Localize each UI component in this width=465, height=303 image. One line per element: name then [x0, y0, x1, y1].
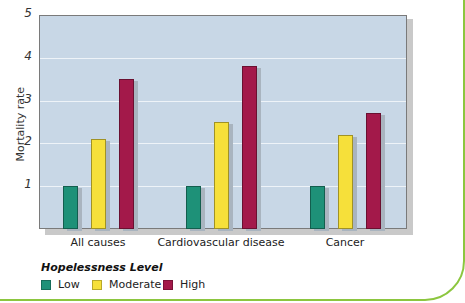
bar-high [242, 66, 257, 229]
bar-low [310, 186, 325, 229]
legend-label: High [180, 278, 205, 291]
legend-swatch-icon [92, 280, 102, 290]
gridline [40, 58, 406, 59]
legend-swatch-icon [163, 280, 173, 290]
legend-label: Low [58, 278, 80, 291]
legend-item-low: Low [41, 278, 80, 291]
legend-label: Moderate [109, 278, 161, 291]
x-tick-label: Cancer [326, 236, 365, 249]
x-tick-label: All causes [70, 236, 125, 249]
bar-high [366, 113, 381, 229]
legend-swatch-icon [41, 280, 51, 290]
y-tick-label: 1 [18, 177, 32, 191]
bar-moderate [338, 135, 353, 229]
y-tick-label: 4 [18, 49, 32, 63]
legend-title: Hopelessness Level [41, 261, 163, 274]
y-tick-label: 5 [18, 6, 32, 20]
legend-item-moderate: Moderate [92, 278, 161, 291]
gridline [40, 101, 406, 102]
x-tick-label: Cardiovascular disease [157, 236, 284, 249]
bar-low [186, 186, 201, 229]
y-axis-label: Mortality rate [14, 102, 27, 162]
bar-high [119, 79, 134, 229]
bar-low [63, 186, 78, 229]
legend-item-high: High [163, 278, 205, 291]
bar-moderate [214, 122, 229, 229]
bar-moderate [91, 139, 106, 229]
